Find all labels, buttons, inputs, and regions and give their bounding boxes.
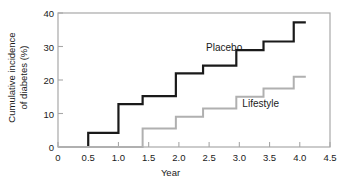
x-tick-label: 3.5 <box>263 152 276 163</box>
x-tick-label: 1.0 <box>112 152 125 163</box>
axis-ticks <box>58 13 330 147</box>
x-tick-label: 2.0 <box>172 152 185 163</box>
x-tick-label: 3.0 <box>233 152 246 163</box>
series-line-placebo <box>58 22 306 147</box>
chart-figure: Cumulative incidence of diabetes (%) 010… <box>0 0 341 185</box>
series-line-lifestyle <box>58 77 306 147</box>
axes-group <box>58 13 330 147</box>
x-tick-label: 4.5 <box>323 152 336 163</box>
series-label-placebo: Placebo <box>206 42 242 53</box>
x-axis-tick-labels: 00.51.01.52.02.53.03.54.04.5 <box>0 152 341 166</box>
x-tick-label: 2.5 <box>203 152 216 163</box>
x-tick-label: 1.5 <box>142 152 155 163</box>
x-tick-label: 4.0 <box>293 152 306 163</box>
data-series-group <box>58 22 306 147</box>
x-tick-label: 0 <box>55 152 60 163</box>
series-label-lifestyle: Lifestyle <box>242 98 279 109</box>
x-axis-label: Year <box>0 167 341 178</box>
x-tick-label: 0.5 <box>82 152 95 163</box>
